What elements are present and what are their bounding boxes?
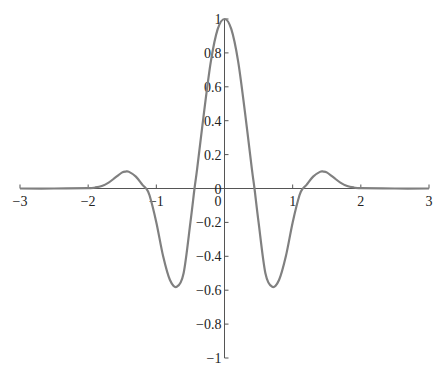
y-tick-label: −0.8 [196,317,221,332]
y-tick-label: −0.6 [196,283,221,298]
y-tick-label: 0.2 [204,148,222,163]
x-tick-label: 3 [426,194,433,209]
y-tick-label: −0.2 [196,215,221,230]
y-tick-label: −0.4 [196,249,221,264]
x-tick-label: 1 [289,194,296,209]
line-chart: −3−2−1123−1−0.8−0.6−0.4−0.200.20.40.60.8… [0,0,441,384]
x-tick-label: −3 [13,194,28,209]
plot-area: −3−2−1123−1−0.8−0.6−0.4−0.200.20.40.60.8… [0,0,441,384]
y-tick-label: −1 [207,351,222,366]
origin-label: 0 [215,194,222,209]
x-tick-label: 2 [357,194,364,209]
y-tick-label: 0.4 [204,114,222,129]
x-tick-label: −2 [81,194,96,209]
